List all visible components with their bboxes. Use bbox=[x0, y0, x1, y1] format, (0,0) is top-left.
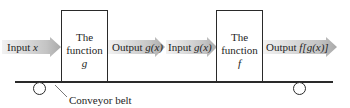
conveyor-belt-label: Conveyor belt bbox=[69, 94, 132, 106]
leader-line bbox=[0, 0, 350, 108]
